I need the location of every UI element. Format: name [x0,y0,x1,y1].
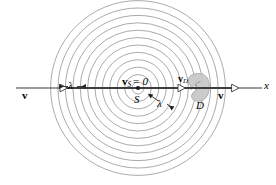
wavelength-label-left: λ [68,80,73,91]
wave-speed-left-label: v [22,90,28,101]
detector-point-label: D [196,100,204,111]
wave-speed-right-label: v [218,90,224,101]
wavelength-label-right: λ [157,98,162,109]
source-velocity-label: vS= 0 [122,76,148,88]
source-point-label: S [134,94,140,105]
x-axis-label: x [264,80,269,91]
detector-velocity-label: vD [178,74,188,85]
doppler-effect-figure: v v x vS= 0 S vD D λ λ [0,0,276,185]
